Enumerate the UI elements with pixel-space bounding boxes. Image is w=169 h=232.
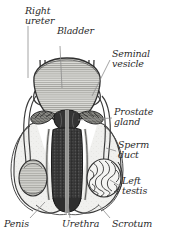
label-right-ureter-line2: ureter xyxy=(25,15,56,26)
diagram-canvas: Right ureter Bladder Seminal vesicle Pro… xyxy=(0,0,169,232)
label-sperm-duct-line2: duct xyxy=(118,149,139,160)
right-testis-structure xyxy=(19,160,47,196)
label-seminal-vesicle-line2: vesicle xyxy=(112,58,144,69)
label-left-testis-line2: testis xyxy=(122,185,147,196)
label-prostate-gland-line2: gland xyxy=(114,116,140,127)
label-scrotum: Scrotum xyxy=(112,218,152,229)
label-bladder: Bladder xyxy=(56,25,96,36)
label-penis: Penis xyxy=(3,218,29,229)
anatomy-diagram: Right ureter Bladder Seminal vesicle Pro… xyxy=(0,0,169,232)
label-urethra: Urethra xyxy=(62,218,100,229)
